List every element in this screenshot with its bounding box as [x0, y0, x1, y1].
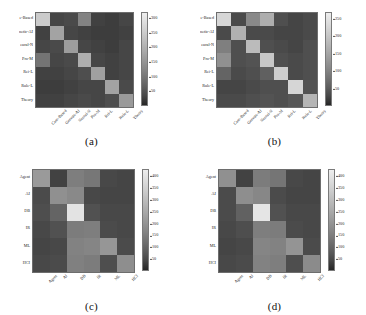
x-tick-label: Rule-L	[302, 109, 313, 120]
heatmap-cell	[219, 238, 236, 255]
heatmap-cell	[246, 94, 260, 107]
y-tick-label: AI	[185, 192, 216, 196]
heatmap-cell	[50, 187, 67, 204]
colorbar-tick-label: 300	[338, 198, 344, 202]
y-axis-tick-labels-c: AgentAIDBIRMLHCI	[2, 169, 32, 271]
heatmap-cell	[288, 53, 302, 66]
heatmap-cell	[119, 13, 133, 26]
heatmap-cell	[253, 187, 270, 204]
colorbar-tick-label: 100	[152, 245, 158, 249]
heatmap-cell	[36, 67, 50, 80]
heatmap-cell	[67, 221, 84, 238]
y-tick-label: Rei-L	[185, 70, 214, 74]
colorbar-tick-labels: 40035030025020015010050	[337, 169, 357, 271]
y-tick-label: e-Based	[2, 16, 33, 20]
heatmap-cell	[36, 80, 50, 93]
heatmap-cell	[288, 13, 302, 26]
colorbar-tick-label: 300	[151, 16, 157, 20]
heatmap-cell	[217, 67, 231, 80]
y-tick-label: Pro-M	[185, 57, 214, 61]
heatmap-cell	[50, 170, 67, 187]
x-tick-label: Agent	[234, 274, 244, 284]
heatmap-cell	[253, 238, 270, 255]
y-tick-label: HCI	[185, 261, 216, 265]
heatmap-cell	[217, 94, 231, 107]
heatmap-cell	[117, 170, 134, 187]
heatmap-cell	[78, 40, 92, 53]
heatmap-cell	[219, 187, 236, 204]
heatmap-cell	[105, 80, 119, 93]
x-tick-label: DB	[80, 274, 87, 281]
x-tick-label: HCI	[317, 274, 325, 282]
colorbar-tick-label: 250	[152, 210, 158, 214]
x-tick-label: Pro-M	[90, 109, 101, 120]
heatmap-cell	[219, 221, 236, 238]
heatmap-cell	[270, 221, 287, 238]
heatmap-cell	[64, 67, 78, 80]
heatmap-cell	[67, 204, 84, 221]
y-tick-label: Theory	[185, 97, 214, 101]
heatmap-cell	[274, 67, 288, 80]
colorbar-tick-label: 150	[335, 52, 341, 56]
heatmap-cell	[119, 94, 133, 107]
heatmap-cell	[50, 221, 67, 238]
colorbar-tick-label: 150	[338, 233, 344, 237]
heatmap-cell	[33, 204, 50, 221]
heatmap-cell	[64, 53, 78, 66]
heatmap-cell	[50, 13, 64, 26]
heatmap-cell	[117, 238, 134, 255]
heatmap-cell	[67, 170, 84, 187]
colorbar-d: 40035030025020015010050	[328, 169, 357, 271]
heatmap-cell	[33, 255, 50, 272]
panel-caption-d: (d)	[183, 300, 366, 312]
heatmap-cell	[236, 187, 253, 204]
x-axis-tick-labels-d: AgentAIDBIRMLHCI	[183, 273, 366, 299]
heatmap-cell	[260, 40, 274, 53]
heatmap-cell	[303, 255, 320, 272]
heatmap-cell	[288, 94, 302, 107]
heatmap-cell	[286, 221, 303, 238]
heatmap-matrix-b	[216, 12, 318, 108]
heatmap-cell	[260, 67, 274, 80]
heatmap-cell	[288, 26, 302, 39]
heatmap-cell	[286, 187, 303, 204]
heatmap-cell	[288, 80, 302, 93]
x-tick-label: Agent	[48, 274, 58, 284]
colorbar-tick-label: 350	[338, 186, 344, 190]
colorbar-b: 25020015010050	[325, 12, 354, 106]
heatmap-cell	[100, 204, 117, 221]
heatmap-cell	[50, 26, 64, 39]
heatmap-cell	[246, 80, 260, 93]
heatmap-cell	[303, 40, 317, 53]
panel-caption-a: (a)	[0, 135, 183, 147]
heatmap-cell	[119, 80, 133, 93]
heatmap-cell	[217, 13, 231, 26]
x-tick-label: Rei-L	[287, 109, 297, 119]
heatmap-cell	[64, 26, 78, 39]
heatmap-cell	[303, 67, 317, 80]
y-tick-label: Rei-L	[2, 70, 33, 74]
heatmap-cell	[274, 13, 288, 26]
colorbar-tick-label: 250	[335, 17, 341, 21]
heatmap-cell	[253, 170, 270, 187]
colorbar-tick-label: 400	[338, 174, 344, 178]
colorbar-gradient	[142, 169, 149, 271]
heatmap-cell	[219, 255, 236, 272]
heatmap-cell	[36, 13, 50, 26]
heatmap-cell	[78, 80, 92, 93]
heatmap-cell	[50, 204, 67, 221]
x-tick-label: Rule-L	[118, 109, 129, 120]
heatmap-cell	[231, 67, 245, 80]
colorbar-tick-label: 400	[152, 174, 158, 178]
y-tick-label: eural-N	[2, 43, 33, 47]
heatmap-cell	[286, 238, 303, 255]
x-tick-label: DB	[266, 274, 273, 281]
heatmap-cell	[50, 94, 64, 107]
colorbar-tick-label: 200	[152, 221, 158, 225]
heatmap-cell	[117, 187, 134, 204]
panel-caption-b: (b)	[183, 135, 366, 147]
heatmap-plot-c: AgentAIDBIRMLHCI40035030025020015010050A…	[0, 157, 183, 312]
heatmap-cell	[84, 170, 101, 187]
heatmap-cell	[231, 80, 245, 93]
x-tick-label: Theory	[316, 109, 328, 121]
